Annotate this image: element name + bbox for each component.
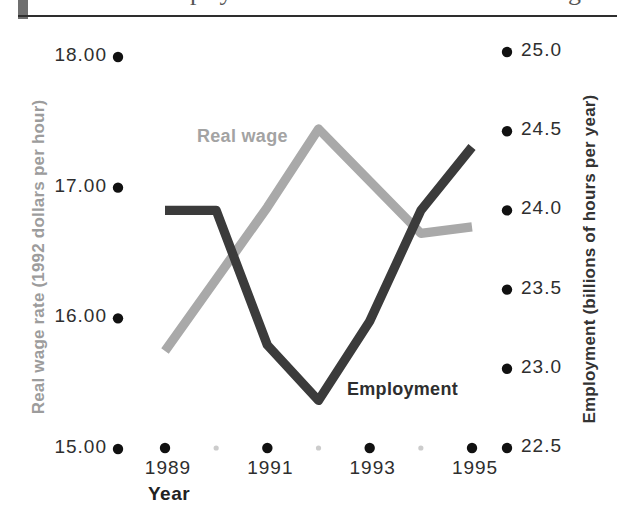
- left-axis-tick-dot: [113, 182, 123, 192]
- real-wage-line: [165, 129, 472, 351]
- right-axis-tick-dot: [502, 284, 512, 294]
- x-axis-tick-dot: [364, 443, 374, 453]
- left-axis-tick-dot: [113, 313, 123, 323]
- series-label-real-wage: Real wage: [197, 126, 288, 147]
- left-axis-title: Real wage rate (1992 dollars per hour): [27, 57, 51, 457]
- right-axis-tick-dot: [502, 443, 512, 453]
- left-axis-tick-dot: [113, 52, 123, 62]
- left-axis-tick-label: 18.00: [37, 44, 107, 66]
- right-axis-tick-label: 24.0: [521, 197, 562, 219]
- x-axis-minor-tick-dot: [316, 445, 321, 450]
- right-axis-tick-label: 23.0: [521, 356, 562, 378]
- x-axis-minor-tick-dot: [214, 445, 219, 450]
- x-axis-tick-dot: [262, 443, 272, 453]
- x-axis-minor-tick-dot: [418, 445, 423, 450]
- x-axis-tick-label: 1995: [443, 457, 507, 479]
- employment-line: [165, 147, 472, 401]
- left-axis-tick-label: 17.00: [37, 175, 107, 197]
- left-axis-tick-label: 15.00: [37, 436, 107, 458]
- x-axis-tick-label: 1989: [136, 457, 200, 479]
- right-axis-tick-dot: [502, 126, 512, 136]
- right-axis-tick-label: 22.5: [521, 435, 562, 457]
- x-axis-tick-label: 1993: [341, 457, 405, 479]
- x-axis-title: Year: [148, 483, 190, 505]
- right-axis-tick-dot: [502, 205, 512, 215]
- right-axis-tick-label: 24.5: [521, 118, 562, 140]
- left-axis-tick-label: 16.00: [37, 305, 107, 327]
- right-axis-tick-label: 25.0: [521, 39, 562, 61]
- right-axis-tick-dot: [502, 364, 512, 374]
- x-axis-tick-dot: [160, 443, 170, 453]
- x-axis-tick-dot: [467, 443, 477, 453]
- x-axis-tick-label: 1991: [238, 457, 302, 479]
- right-axis-title: Employment (billions of hours per year): [578, 59, 602, 459]
- right-axis-tick-dot: [502, 47, 512, 57]
- series-label-employment: Employment: [347, 379, 458, 400]
- left-axis-tick-dot: [113, 444, 123, 454]
- right-axis-tick-label: 23.5: [521, 277, 562, 299]
